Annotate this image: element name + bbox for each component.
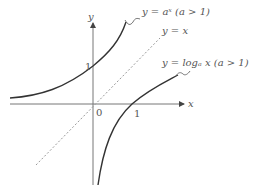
x-axis-label: x xyxy=(188,98,194,109)
logarithm-label: y = logₐ x (a > 1) xyxy=(161,57,249,68)
y-axis-label: y xyxy=(87,11,94,22)
function-graph: y x 0 1 1 y = aˣ (a > 1) y = x y = logₐ … xyxy=(0,0,255,193)
pointer-squiggle-exp xyxy=(125,18,140,24)
origin-label: 0 xyxy=(96,107,102,118)
logarithm-curve xyxy=(98,75,178,185)
identity-label: y = x xyxy=(161,25,188,36)
identity-line xyxy=(36,38,160,165)
y-tick-label: 1 xyxy=(85,61,91,72)
exponential-label: y = aˣ (a > 1) xyxy=(141,6,210,17)
x-tick-label: 1 xyxy=(134,108,140,119)
exponential-curve xyxy=(10,22,126,98)
